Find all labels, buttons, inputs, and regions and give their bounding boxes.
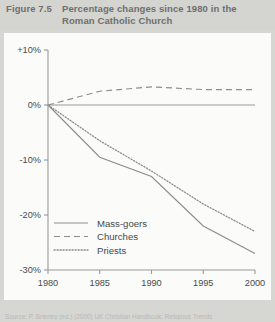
figure-title-band: Figure 7.5 Percentage changes since 1980… — [0, 0, 275, 31]
legend-label-mass-goers: Mass-goers — [97, 218, 147, 229]
y-axis-ticks: +10%0%-10%-20%-30% — [17, 45, 48, 275]
figure-number: Figure 7.5 — [6, 3, 52, 14]
y-axis-tick-label: -30% — [20, 265, 41, 275]
x-axis-tick-label: 1980 — [38, 278, 58, 288]
chart-panel: +10%0%-10%-20%-30% 19801985199019952000 … — [4, 33, 271, 300]
line-chart: +10%0%-10%-20%-30% 19801985199019952000 … — [4, 33, 271, 300]
y-axis-tick-label: 0% — [28, 100, 41, 110]
y-axis-tick-label: -20% — [20, 210, 41, 220]
chart-legend: Mass-goersChurchesPriests — [54, 218, 147, 256]
x-axis-tick-label: 1995 — [193, 278, 213, 288]
legend-label-churches: Churches — [97, 231, 138, 242]
series-line-churches — [48, 87, 255, 105]
page-title: Percentage changes since 1980 in the Rom… — [62, 3, 270, 27]
series-line-priests — [48, 105, 255, 232]
x-axis-ticks: 19801985199019952000 — [38, 270, 265, 288]
figure-title-line-1: Percentage changes since 1980 in the — [62, 3, 237, 14]
series-line-mass-goers — [48, 105, 255, 254]
y-axis-tick-label: +10% — [17, 45, 41, 55]
figure-title-line-2: Roman Catholic Church — [62, 15, 172, 26]
legend-label-priests: Priests — [97, 245, 127, 256]
x-axis-tick-label: 1985 — [90, 278, 110, 288]
y-axis-tick-label: -10% — [20, 155, 41, 165]
chart-series — [48, 87, 255, 254]
x-axis-tick-label: 1990 — [141, 278, 161, 288]
source-caption: Source: P. Brierley (ed.) (2000) UK Chri… — [5, 313, 275, 320]
x-axis-tick-label: 2000 — [245, 278, 265, 288]
